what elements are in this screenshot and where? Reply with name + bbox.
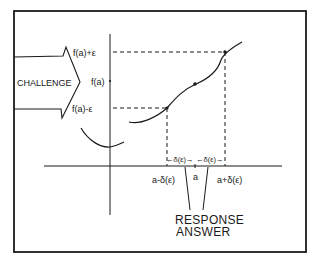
delta-interval-left: ←δ(ε)→: [166, 155, 194, 164]
label-a-plus-delta: a+δ(ε): [217, 175, 242, 185]
label-a-minus-delta: a-δ(ε): [152, 175, 175, 185]
label-f-a: f(a): [91, 77, 105, 87]
answer-label: ANSWER: [176, 225, 231, 239]
point-lower: [165, 106, 168, 109]
point-upper: [223, 50, 227, 54]
point-center: [193, 82, 197, 86]
frame-border: [14, 11, 306, 252]
label-f-a-plus-eps: f(a)+ε: [73, 48, 96, 58]
continuity-diagram: CHALLENGE f(a)+ε f(a) f(a)-ε ←δ(ε)→ ←δ(ε…: [0, 0, 317, 264]
challenge-label: CHALLENGE: [17, 78, 72, 88]
label-f-a-minus-eps: f(a)-ε: [72, 104, 93, 114]
delta-interval-right: ←δ(ε)→: [196, 155, 224, 164]
function-curve-lower: [81, 128, 124, 147]
label-a: a: [193, 172, 198, 182]
